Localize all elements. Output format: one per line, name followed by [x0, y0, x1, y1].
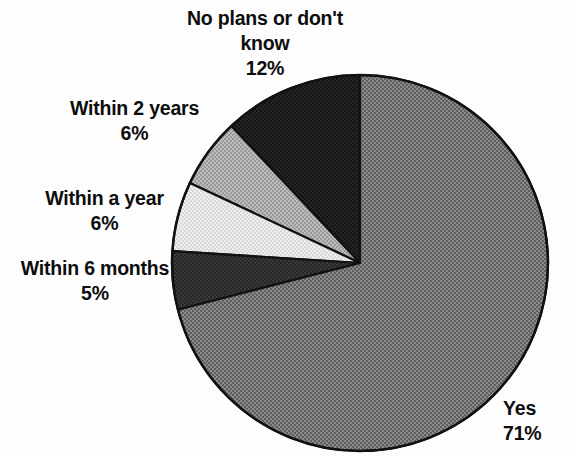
slice-label-within-a-year: Within a year 6% — [12, 186, 197, 236]
slice-label-no-plans: No plans or don't know 12% — [160, 6, 370, 81]
pie-chart-figure: No plans or don't know 12% Within 2 year… — [0, 0, 574, 456]
slice-label-within-6-months: Within 6 months 5% — [0, 256, 190, 306]
slice-label-yes: Yes 71% — [503, 396, 573, 446]
slice-label-within-2-years: Within 2 years 6% — [37, 96, 232, 146]
